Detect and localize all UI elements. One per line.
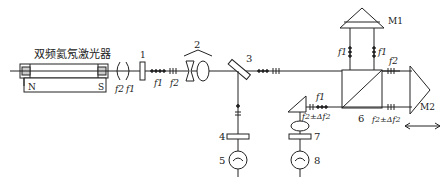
beam-f2-label: f2 [169, 78, 179, 88]
circ-f2-label: f2 [114, 84, 124, 94]
magnet-n-label: N [28, 82, 36, 92]
element-2-brace [184, 50, 212, 56]
circ-f1-label: f1 [125, 84, 135, 94]
beam-f1-label: f1 [153, 78, 163, 88]
lower-f2-shift-label: f2±Δf2 [301, 112, 331, 121]
up-f1-right-label: f1 [377, 47, 387, 57]
magnet-s-label: S [98, 82, 104, 92]
element-4-polarizer [227, 134, 249, 139]
element-2-waveplate [197, 61, 209, 81]
label-3: 3 [246, 53, 252, 64]
lens [291, 121, 309, 131]
lower-f1-label: f1 [315, 92, 325, 102]
m1-corner-prism [340, 8, 384, 28]
element-7-polarizer [289, 134, 311, 139]
bottom-f2-shift-label: f2±Δf2 [371, 115, 401, 124]
right-f2-label: f2 [388, 56, 398, 66]
laser-title: 双频氦氖激光器 [34, 47, 111, 61]
element-1 [140, 62, 145, 80]
element-8-detector [291, 151, 309, 169]
label-2: 2 [194, 39, 200, 50]
label-6: 6 [358, 113, 364, 124]
label-7: 7 [314, 131, 320, 142]
label-5: 5 [219, 155, 225, 166]
interferometer-diagram: 双频氦氖激光器 N S f2 f1 1 f1 f2 2 3 4 5 7 8 6 … [0, 0, 446, 187]
label-8: 8 [314, 155, 320, 166]
label-m2: M2 [420, 102, 435, 112]
label-m1: M1 [388, 16, 403, 26]
label-1: 1 [140, 50, 146, 60]
label-4: 4 [219, 131, 225, 142]
right-angle-prism [288, 96, 306, 112]
element-5-detector [229, 151, 247, 169]
up-f1-left-label: f1 [337, 47, 347, 57]
element-6-pbs-cube [342, 70, 382, 108]
